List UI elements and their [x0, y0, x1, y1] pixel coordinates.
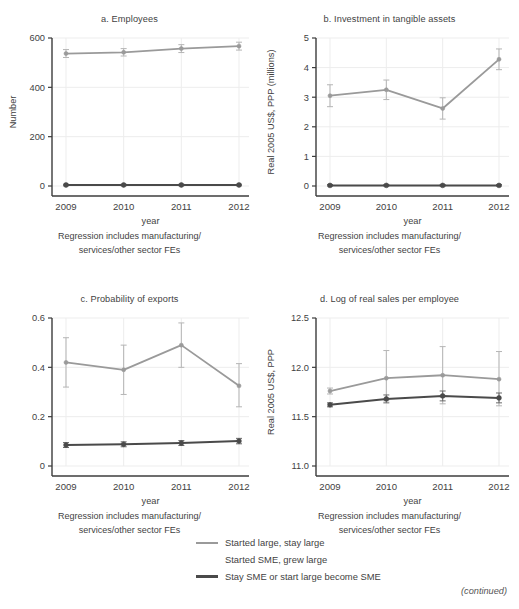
y-axis-label: Real 2005 US$, PPP (millions): [266, 50, 276, 175]
x-axis-label: year: [404, 496, 422, 506]
data-point-marker: [237, 439, 242, 444]
panel-d-caption-line1: Regression includes manufacturing/: [260, 510, 519, 524]
data-point-marker: [237, 183, 242, 188]
panel-a-employees: a. Employees 02004006002009201020112012y…: [0, 0, 259, 280]
x-axis-label: year: [404, 216, 422, 226]
y-tick-label: 12.0: [291, 363, 309, 373]
series-line: [330, 375, 499, 391]
y-tick-label: 12.5: [291, 313, 309, 323]
series-line: [66, 441, 239, 445]
legend-label: Stay SME or start large become SME: [225, 571, 381, 582]
data-point-marker: [237, 384, 241, 388]
x-axis-label: year: [142, 496, 160, 506]
panel-c-exports: c. Probability of exports 00.20.40.62009…: [0, 280, 259, 560]
data-point-marker: [441, 373, 445, 377]
panel-b-caption-line2: services/other sector FEs: [260, 244, 519, 258]
data-point-marker: [440, 183, 445, 188]
y-tick-label: 11.5: [292, 412, 309, 422]
y-tick-label: 600: [29, 33, 45, 43]
legend-item-2: Stay SME or start large become SME: [0, 568, 519, 585]
data-point-marker: [441, 106, 445, 110]
x-tick-label: 2012: [228, 481, 249, 492]
panel-a-plot: 02004006002009201020112012yearNumber: [0, 0, 259, 232]
panel-b-investment: b. Investment in tangible assets 0123452…: [260, 0, 519, 280]
y-axis-label: Real 2005 US$, PPP: [266, 349, 276, 435]
data-point-marker: [122, 368, 126, 372]
y-axis-label: Number: [8, 96, 18, 129]
x-tick-label: 2011: [432, 481, 453, 492]
chart-svg-a: 02004006002009201020112012yearNumber: [0, 0, 259, 232]
y-tick-label: 4: [304, 63, 309, 73]
data-point-marker: [384, 376, 388, 380]
legend-label: Started large, stay large: [225, 537, 325, 548]
data-point-marker: [384, 397, 389, 402]
data-point-marker: [121, 442, 126, 447]
panel-a-caption-line1: Regression includes manufacturing/: [0, 230, 259, 244]
panel-d-caption: Regression includes manufacturing/ servi…: [260, 510, 519, 537]
panel-c-caption-line1: Regression includes manufacturing/: [0, 510, 259, 524]
x-tick-label: 2009: [55, 201, 76, 212]
x-tick-label: 2010: [113, 481, 134, 492]
series-line: [66, 46, 239, 53]
x-tick-label: 2010: [376, 481, 397, 492]
x-tick-label: 2012: [488, 481, 509, 492]
data-point-marker: [440, 394, 445, 399]
chart-svg-d: 11.011.512.012.52009201020112012yearReal…: [260, 280, 519, 512]
legend-swatch-icon: [196, 559, 218, 561]
x-tick-label: 2010: [113, 201, 134, 212]
x-tick-label: 2011: [171, 481, 192, 492]
panel-d-log-sales: d. Log of real sales per employee 11.011…: [260, 280, 519, 560]
data-point-marker: [121, 183, 126, 188]
panel-a-caption-line2: services/other sector FEs: [0, 244, 259, 258]
x-tick-label: 2010: [376, 201, 397, 212]
data-point-marker: [64, 443, 69, 448]
data-point-marker: [384, 88, 388, 92]
x-tick-label: 2012: [488, 201, 509, 212]
legend-item-1: Started SME, grew large: [0, 551, 519, 568]
y-tick-label: 3: [304, 93, 309, 103]
panel-b-plot: 0123452009201020112012yearReal 2005 US$,…: [260, 0, 519, 232]
legend-swatch-icon: [196, 575, 218, 578]
data-point-marker: [64, 52, 68, 56]
y-tick-label: 0: [40, 461, 45, 471]
panel-a-caption: Regression includes manufacturing/ servi…: [0, 230, 259, 257]
panel-c-caption: Regression includes manufacturing/ servi…: [0, 510, 259, 537]
chart-svg-c: 00.20.40.62009201020112012year: [0, 280, 259, 512]
data-point-marker: [64, 360, 68, 364]
x-tick-label: 2009: [319, 201, 340, 212]
panel-b-caption: Regression includes manufacturing/ servi…: [260, 230, 519, 257]
continued-note: (continued): [461, 586, 507, 596]
panel-c-plot: 00.20.40.62009201020112012year: [0, 280, 259, 512]
data-point-marker: [497, 183, 502, 188]
y-tick-label: 0.6: [32, 313, 45, 323]
figure-legend: Started large, stay largeStarted SME, gr…: [0, 534, 519, 585]
data-point-marker: [64, 183, 69, 188]
data-point-marker: [328, 94, 332, 98]
data-point-marker: [328, 389, 332, 393]
x-tick-label: 2011: [432, 201, 453, 212]
panel-b-caption-line1: Regression includes manufacturing/: [260, 230, 519, 244]
chart-svg-b: 0123452009201020112012yearReal 2005 US$,…: [260, 0, 519, 232]
panel-d-plot: 11.011.512.012.52009201020112012yearReal…: [260, 280, 519, 512]
y-tick-label: 0.4: [32, 363, 45, 373]
data-point-marker: [328, 183, 333, 188]
x-axis-label: year: [142, 216, 160, 226]
y-tick-label: 1: [304, 152, 309, 162]
data-point-marker: [384, 183, 389, 188]
data-point-marker: [497, 377, 501, 381]
data-point-marker: [328, 402, 333, 407]
y-tick-label: 0.2: [32, 412, 45, 422]
data-point-marker: [497, 57, 501, 61]
y-tick-label: 2: [304, 122, 309, 132]
series-line: [330, 59, 499, 108]
legend-item-0: Started large, stay large: [0, 534, 519, 551]
series-line: [330, 396, 499, 405]
y-tick-label: 0: [40, 181, 45, 191]
data-point-marker: [179, 183, 184, 188]
y-tick-label: 400: [29, 83, 45, 93]
data-point-marker: [497, 396, 502, 401]
data-point-marker: [179, 343, 183, 347]
legend-label: Started SME, grew large: [225, 554, 327, 565]
x-tick-label: 2011: [171, 201, 192, 212]
y-tick-label: 5: [304, 33, 309, 43]
